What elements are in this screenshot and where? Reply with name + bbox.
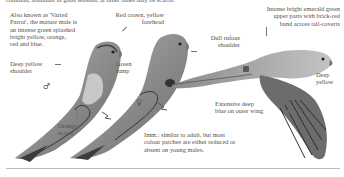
deep-yellow-label: Deep yellow xyxy=(316,71,333,86)
male-symbol: ♂ xyxy=(43,82,50,91)
intro-label: Also known as 'Varied Parrot', the matur… xyxy=(10,11,77,47)
deep-yellow-shoulder-label: Deep yellow shoulder xyxy=(10,60,42,75)
bottom-divider xyxy=(6,168,340,169)
deep-yellow-shoulder-leader xyxy=(55,64,61,65)
dull-rufous-label: Dull rufous shoulder xyxy=(190,34,240,49)
emerald-leader xyxy=(266,27,267,36)
orange-red-leader xyxy=(76,110,77,118)
outer-wing-label: Extensive deep blue on outer wing xyxy=(215,100,263,115)
dull-rufous-leader xyxy=(191,51,197,52)
emerald-label: Intense bright emerald green upper parts… xyxy=(222,5,340,27)
green-rump-label: Green rump xyxy=(116,60,132,75)
immature-note: Imm.: similar to adult, but most colour … xyxy=(144,131,235,153)
female-symbol: ♀ xyxy=(136,98,142,107)
orange-red-label: Orange to red xyxy=(58,122,77,137)
red-crown-label: Red crown, yellow forehead xyxy=(102,11,164,26)
